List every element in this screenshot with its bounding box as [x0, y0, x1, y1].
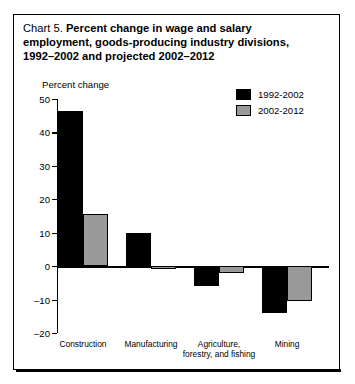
y-axis-tick-label: –20	[34, 328, 50, 339]
y-axis-tick-mark	[52, 99, 57, 100]
y-axis-tick-label: 0	[45, 261, 50, 272]
y-axis-tick-mark	[52, 300, 57, 301]
bar	[287, 266, 312, 301]
plot-area: 50403020100–10–20ConstructionManufacturi…	[57, 99, 329, 333]
y-axis-title: Percent change	[42, 79, 109, 90]
bar	[262, 266, 287, 313]
chart-title-text-1: Percent change in wage and salary	[66, 22, 252, 34]
x-axis-category-label: Manufacturing	[124, 339, 177, 349]
y-axis-tick-label: 50	[39, 94, 50, 105]
chart-title-line-3: 1992–2002 and projected 2002–2012	[23, 49, 333, 63]
y-axis-tick-mark	[52, 233, 57, 234]
chart-card: Chart 5. Percent change in wage and sala…	[13, 14, 340, 370]
bar	[151, 266, 176, 269]
y-axis-tick-label: 20	[39, 194, 50, 205]
x-axis-category-label-line: Manufacturing	[124, 339, 177, 349]
bar	[126, 233, 151, 266]
chart-title-line-1: Chart 5. Percent change in wage and sala…	[23, 21, 333, 35]
x-axis-category-label-line: forestry, and fishing	[183, 349, 255, 359]
x-axis-category-label: Mining	[275, 339, 300, 349]
chart-title-line-2: employment, goods-producing industry div…	[23, 35, 333, 49]
x-axis-category-label: Construction	[59, 339, 106, 349]
y-axis-tick-label: 10	[39, 227, 50, 238]
bar	[58, 111, 83, 266]
y-axis-tick-label: –10	[34, 294, 50, 305]
bar	[194, 266, 219, 286]
x-axis-category-label-line: Mining	[275, 339, 300, 349]
x-axis-category-label-line: Construction	[59, 339, 106, 349]
x-axis-category-label-line: Agriculture,	[183, 339, 255, 349]
y-axis-tick-mark	[52, 166, 57, 167]
y-axis-tick-mark	[52, 333, 57, 334]
y-axis-tick-mark	[52, 266, 57, 267]
y-axis-tick-mark	[52, 199, 57, 200]
chart-title: Chart 5. Percent change in wage and sala…	[23, 21, 333, 64]
y-axis-tick-label: 40	[39, 127, 50, 138]
y-axis-tick-label: 30	[39, 160, 50, 171]
chart-number-label: Chart 5.	[23, 22, 63, 34]
bar	[83, 214, 108, 266]
x-axis-category-label: Agriculture,forestry, and fishing	[183, 339, 255, 359]
bar	[219, 266, 244, 273]
y-axis-tick-mark	[52, 132, 57, 133]
